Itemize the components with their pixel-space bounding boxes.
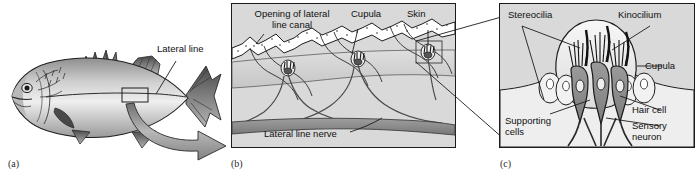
label-cupula-b: Cupula <box>351 9 381 20</box>
label-sensory-neuron: Sensory neuron <box>632 121 667 142</box>
fish-body <box>12 58 188 138</box>
neuromast-1 <box>281 60 295 76</box>
label-cupula-c: Cupula <box>645 61 675 72</box>
panel-caption-a: (a) <box>8 158 19 169</box>
pupil <box>25 86 30 91</box>
label-lateral-line: Lateral line <box>157 44 203 55</box>
panel-caption-b: (b) <box>231 158 243 169</box>
label-kinocilium: Kinocilium <box>618 10 661 21</box>
lateral-line-figure: Lateral line (a) <box>0 0 698 181</box>
connector-top <box>416 14 512 41</box>
connector-bottom <box>416 62 512 146</box>
caudal-fin <box>186 66 221 127</box>
hair-cells-group <box>571 62 628 124</box>
panel-a: Lateral line (a) <box>0 0 228 181</box>
label-opening-of-lateral-line-canal: Opening of lateral line canal <box>240 9 344 30</box>
neuromast-2 <box>351 51 365 67</box>
label-hair-cell: Hair cell <box>632 105 666 116</box>
fish-illustration <box>0 0 228 181</box>
panel-caption-c: (c) <box>500 158 511 169</box>
label-lateral-line-nerve: Lateral line nerve <box>264 129 337 140</box>
panel-c: Stereocilia Kinocilium Cupula Hair cell … <box>499 3 695 148</box>
label-stereocilia: Stereocilia <box>508 10 552 21</box>
label-supporting-cells: Supporting cells <box>505 116 551 137</box>
